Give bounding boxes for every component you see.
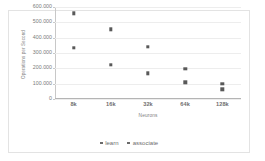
data-point xyxy=(183,81,186,84)
y-axis-tick-mark xyxy=(53,84,55,85)
gridline xyxy=(55,53,241,54)
y-axis-tick-mark xyxy=(53,7,55,8)
data-point xyxy=(72,11,75,14)
data-point xyxy=(109,28,112,31)
data-point xyxy=(221,82,224,85)
x-axis-title: Neurons xyxy=(55,113,241,118)
legend-label: associate xyxy=(133,140,158,146)
x-axis-tick-label: 8k xyxy=(70,101,76,107)
legend-marker-icon xyxy=(127,142,130,145)
data-point xyxy=(146,72,149,75)
legend-item[interactable]: learn xyxy=(100,140,119,146)
y-axis-tick-labels: 0100.000200.000300.000400.000500.000600.… xyxy=(14,7,52,99)
y-axis-tick-mark xyxy=(53,22,55,23)
chart-legend: learnassociate xyxy=(8,140,250,146)
legend-label: learn xyxy=(105,140,118,146)
gridline xyxy=(55,22,241,23)
y-axis-tick-label: 400.000 xyxy=(33,35,52,40)
y-axis-tick-mark xyxy=(53,53,55,54)
x-axis-tick-labels: 8k16k32k64k128k xyxy=(55,101,241,111)
y-axis-tick-label: 600.000 xyxy=(33,4,52,9)
y-axis-tick-label: 300.000 xyxy=(33,50,52,55)
data-point xyxy=(146,45,149,48)
data-point xyxy=(109,63,112,66)
y-axis-tick-label: 100.000 xyxy=(33,81,52,86)
y-axis-tick-mark xyxy=(53,38,55,39)
plot-area xyxy=(55,7,241,99)
y-axis-tick-mark xyxy=(53,99,55,100)
gridline xyxy=(55,99,241,100)
gridline xyxy=(55,38,241,39)
x-axis-tick-label: 128k xyxy=(216,101,229,107)
gridline xyxy=(55,68,241,69)
y-axis-tick-label: 0 xyxy=(49,96,52,101)
gridline xyxy=(55,84,241,85)
y-axis-tick-label: 500.000 xyxy=(33,20,52,25)
data-point xyxy=(183,67,186,70)
y-axis-tick-mark xyxy=(53,68,55,69)
legend-marker-icon xyxy=(100,142,103,145)
x-axis-tick-label: 64k xyxy=(180,101,190,107)
legend-item[interactable]: associate xyxy=(127,140,158,146)
scatter-chart: Operations per Second 0100.000200.000300… xyxy=(0,0,265,161)
y-axis-tick-label: 200.000 xyxy=(33,66,52,71)
x-axis-tick-label: 16k xyxy=(106,101,116,107)
data-point xyxy=(72,46,75,49)
x-axis-tick-label: 32k xyxy=(143,101,153,107)
gridline xyxy=(55,7,241,8)
data-point xyxy=(221,88,224,91)
